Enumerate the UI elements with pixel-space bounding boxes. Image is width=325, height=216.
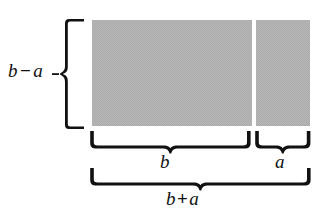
plus-operator: + — [176, 188, 189, 209]
shaded-rectangle-a — [256, 20, 310, 126]
label-b-minus-a-right-term: a — [33, 60, 43, 81]
vertical-brace-b-minus-a — [58, 18, 88, 130]
label-b-minus-a: b−a — [8, 61, 43, 80]
label-b-plus-a-right-term: a — [189, 188, 199, 209]
shaded-rectangle-b — [92, 20, 252, 126]
label-segment-a: a — [275, 152, 285, 171]
label-b-plus-a: b+a — [166, 189, 199, 208]
label-b-minus-a-left-term: b — [8, 60, 18, 81]
label-segment-b: b — [160, 152, 170, 171]
minus-operator: − — [18, 60, 33, 81]
label-b-plus-a-left-term: b — [166, 188, 176, 209]
math-figure: b−a b a b+a — [0, 0, 325, 216]
horizontal-brace-b — [88, 131, 254, 155]
